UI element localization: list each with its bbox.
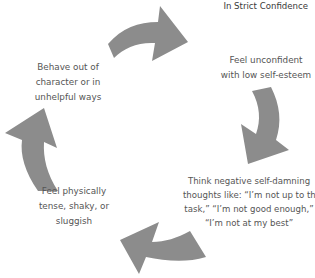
- step-negative-thoughts: Think negative self-damning thoughts lik…: [183, 174, 315, 230]
- step-text-line: Behave out of: [20, 60, 116, 75]
- step-text-line: Feel physically: [28, 184, 120, 199]
- step-text-line: unhelpful ways: [20, 90, 116, 105]
- step-text-line: “I’m not at my best”: [183, 216, 315, 230]
- cycle-arrows: [0, 0, 315, 278]
- top-arrow-icon: [108, 6, 188, 61]
- step-physically-tense: Feel physically tense, shaky, or sluggis…: [28, 184, 120, 229]
- step-text-line: sluggish: [28, 214, 120, 229]
- step-text-line: Think negative self-damning: [183, 174, 315, 188]
- step-text-line: Feel unconfident: [216, 53, 315, 68]
- step-text-line: task,” “I’m not good enough,”: [183, 202, 315, 216]
- right-arrow-icon: [241, 87, 289, 164]
- step-feel-unconfident: Feel unconfident with low self-esteem: [216, 53, 315, 83]
- step-text-line: tense, shaky, or: [28, 199, 120, 214]
- step-behave-out-of-character: Behave out of character or in unhelpful …: [20, 60, 116, 105]
- step-text-line: character or in: [20, 75, 116, 90]
- step-text-line: thoughts like: “I’m not up to the: [183, 188, 315, 202]
- step-text-line: with low self-esteem: [216, 68, 315, 83]
- left-arrow-icon: [5, 108, 58, 191]
